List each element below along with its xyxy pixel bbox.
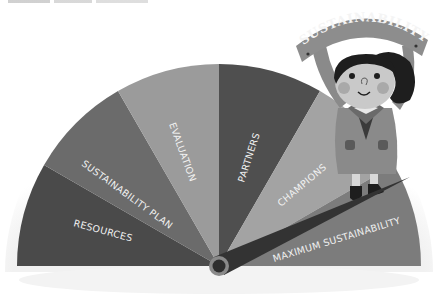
needle-hub-center: [213, 260, 226, 273]
banner-pin-right: [414, 44, 417, 47]
banner-pin-left: [306, 52, 309, 55]
gauge-svg: RESOURCES SUSTAINABILITY PLAN EVALUATION…: [0, 0, 444, 300]
left-eye: [349, 73, 355, 79]
right-pocket: [378, 140, 388, 150]
left-leg: [352, 174, 360, 188]
right-cheek: [377, 82, 389, 94]
right-eye: [374, 73, 380, 79]
sustainability-gauge-illustration: RESOURCES SUSTAINABILITY PLAN EVALUATION…: [0, 0, 444, 300]
left-cheek: [338, 82, 350, 94]
left-pocket: [345, 140, 355, 150]
cropped-caption-line: [8, 0, 148, 3]
